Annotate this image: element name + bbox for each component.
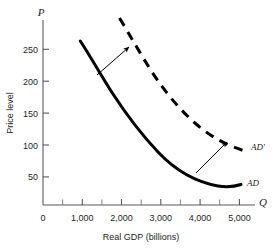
y-tick-label-200: 200 bbox=[23, 77, 38, 87]
x-tick-label-3000: 3,000 bbox=[150, 213, 173, 223]
shift-arrow-upper bbox=[97, 47, 129, 75]
x-axis-ticks bbox=[82, 199, 239, 205]
y-tick-label-50: 50 bbox=[28, 172, 38, 182]
x-tick-label-2000: 2,000 bbox=[110, 213, 133, 223]
y-axis-title: Price level bbox=[5, 92, 15, 134]
x-tick-label-4000: 4,000 bbox=[189, 213, 212, 223]
y-tick-label-100: 100 bbox=[23, 141, 38, 151]
x-tick-label-0: 0 bbox=[40, 213, 45, 223]
x-tick-label-5000: 5,000 bbox=[228, 213, 251, 223]
aggregate-demand-chart: 250 200 150 100 50 0 1,000 2,000 3,000 bbox=[0, 0, 276, 248]
chart-svg: 250 200 150 100 50 0 1,000 2,000 3,000 bbox=[0, 0, 276, 248]
ad-curve-label: AD bbox=[246, 178, 259, 188]
axes-group bbox=[43, 20, 255, 205]
y-tick-label-250: 250 bbox=[23, 45, 38, 55]
x-axis-symbol-label: Q bbox=[259, 196, 267, 208]
shift-arrow-lower bbox=[196, 142, 227, 173]
x-tick-label-1000: 1,000 bbox=[71, 213, 94, 223]
x-axis-minor-ticks bbox=[63, 200, 220, 206]
y-axis-symbol-label: P bbox=[37, 6, 45, 18]
ad-curve bbox=[80, 41, 241, 187]
x-axis-title: Real GDP (billions) bbox=[103, 232, 179, 242]
y-tick-label-150: 150 bbox=[23, 109, 38, 119]
x-axis-tick-labels: 0 1,000 2,000 3,000 4,000 5,000 bbox=[40, 213, 250, 223]
y-axis-tick-labels: 250 200 150 100 50 bbox=[23, 45, 38, 183]
y-axis-ticks bbox=[43, 49, 49, 177]
ad-prime-curve-label: AD′ bbox=[250, 142, 266, 152]
